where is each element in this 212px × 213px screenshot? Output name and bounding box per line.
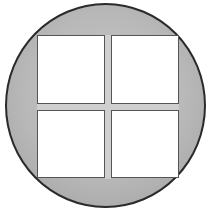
pane-bottom-right [111, 110, 179, 178]
pane-top-left [37, 35, 105, 104]
pane-top-right [111, 35, 179, 104]
pane-bottom-left [37, 110, 105, 178]
